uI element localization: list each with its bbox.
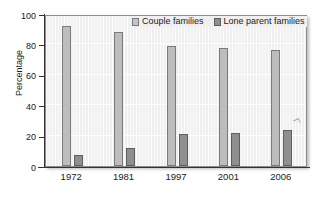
y-tick-60: 60 xyxy=(39,76,45,77)
plot-background-texture xyxy=(46,16,306,166)
bar-1997-lone-parent[interactable] xyxy=(179,134,188,166)
y-tick-mark-20 xyxy=(39,137,45,138)
y-axis-line xyxy=(44,14,45,168)
y-tick-label-20: 20 xyxy=(26,133,36,142)
y-tick-mark-80 xyxy=(39,45,45,46)
bar-chart: 020406080100 19721981199720012006 Percen… xyxy=(0,0,322,205)
y-tick-label-80: 80 xyxy=(26,41,36,50)
legend-swatch-lone-parent-icon xyxy=(214,18,221,26)
x-tick-label-1997: 1997 xyxy=(151,171,201,182)
legend-label-lone-parent-families: Lone parent families xyxy=(224,17,305,26)
gridline-60 xyxy=(46,74,306,75)
bar-2001-lone-parent[interactable] xyxy=(231,133,240,166)
x-tick-label-2006: 2006 xyxy=(256,171,306,182)
y-tick-0: 0 xyxy=(39,167,45,168)
y-tick-20: 20 xyxy=(39,137,45,138)
legend-label-couple-families: Couple families xyxy=(142,17,204,26)
gridline-80 xyxy=(46,43,306,44)
x-axis-line xyxy=(38,167,310,168)
bar-1972-couple[interactable] xyxy=(62,26,71,166)
y-tick-mark-40 xyxy=(39,106,45,107)
y-tick-mark-0 xyxy=(39,167,45,168)
bar-1972-lone-parent[interactable] xyxy=(74,155,83,166)
y-tick-mark-100 xyxy=(39,15,45,16)
legend-swatch-couple-icon xyxy=(132,18,139,26)
y-axis-title: Percentage xyxy=(14,33,24,113)
bar-2001-couple[interactable] xyxy=(219,48,228,166)
bar-2006-lone-parent[interactable] xyxy=(283,130,292,166)
y-tick-mark-60 xyxy=(39,76,45,77)
y-tick-100: 100 xyxy=(39,15,45,16)
y-tick-label-60: 60 xyxy=(26,72,36,81)
bar-1981-lone-parent[interactable] xyxy=(126,148,135,166)
bar-2006-couple[interactable] xyxy=(271,50,280,166)
y-tick-40: 40 xyxy=(39,106,45,107)
x-tick-label-1981: 1981 xyxy=(99,171,149,182)
gridline-40 xyxy=(46,104,306,105)
y-tick-label-100: 100 xyxy=(21,11,36,20)
gridline-20 xyxy=(46,135,306,136)
bar-1997-couple[interactable] xyxy=(167,46,176,166)
y-tick-80: 80 xyxy=(39,45,45,46)
bar-1981-couple[interactable] xyxy=(114,32,123,166)
x-tick-label-2001: 2001 xyxy=(203,171,253,182)
y-tick-label-0: 0 xyxy=(31,163,36,172)
scan-artifact-mark xyxy=(294,118,302,125)
plot-area xyxy=(45,15,307,167)
y-tick-label-40: 40 xyxy=(26,102,36,111)
legend-entry-lone-parent-families[interactable]: Lone parent families xyxy=(214,17,305,26)
legend-entry-couple-families[interactable]: Couple families xyxy=(132,17,204,26)
x-tick-label-1972: 1972 xyxy=(46,171,96,182)
chart-legend: Couple families Lone parent families xyxy=(130,16,307,27)
